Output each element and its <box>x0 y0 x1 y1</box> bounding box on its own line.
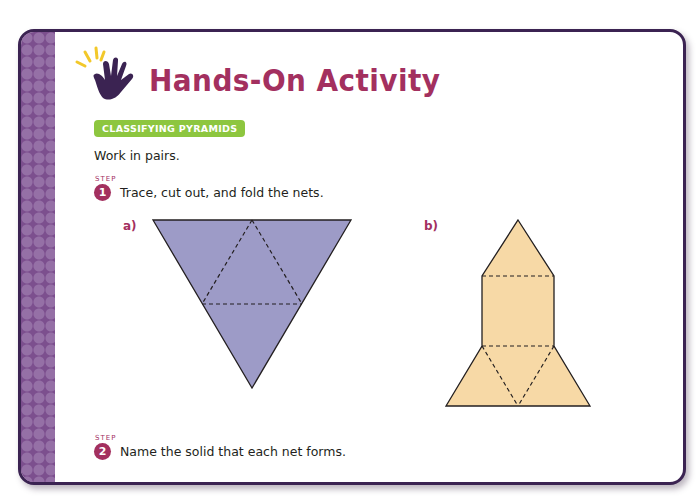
step-2-text: Name the solid that each net forms. <box>120 444 346 459</box>
intro-text: Work in pairs. <box>94 148 180 163</box>
net-b-label: b) <box>424 219 438 233</box>
section-badge: CLASSIFYING PYRAMIDS <box>94 120 245 137</box>
step-2-number: 2 <box>94 443 111 460</box>
waving-hand-icon <box>73 44 143 104</box>
step-2-word: STEP <box>95 434 116 442</box>
decorative-side-strip <box>21 32 55 482</box>
net-a-label: a) <box>123 219 137 233</box>
net-b-pyramid-net <box>444 218 592 408</box>
activity-card: Hands-On Activity CLASSIFYING PYRAMIDS W… <box>18 29 686 485</box>
step-1-text: Trace, cut out, and fold the nets. <box>120 185 324 200</box>
step-1-word: STEP <box>95 175 116 183</box>
net-a-triangular-pyramid <box>151 218 353 390</box>
page-title: Hands-On Activity <box>149 62 440 98</box>
step-1-number: 1 <box>94 184 111 201</box>
